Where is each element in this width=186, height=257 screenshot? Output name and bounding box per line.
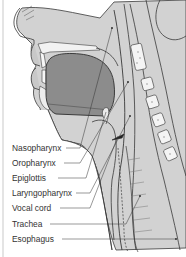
label-nasopharynx: Nasopharynx xyxy=(12,143,61,153)
tongue xyxy=(46,53,115,116)
label-laryngopharynx: Laryngopharynx xyxy=(12,188,72,198)
label-esophagus: Esophagus xyxy=(12,234,54,244)
label-oropharynx: Oropharynx xyxy=(12,158,56,168)
lower-teeth xyxy=(42,70,46,84)
label-epiglottis: Epiglottis xyxy=(12,173,46,183)
label-vocal-cord: Vocal cord xyxy=(12,203,51,213)
label-trachea: Trachea xyxy=(12,219,42,229)
anatomy-diagram: Nasopharynx Oropharynx Epiglottis Laryng… xyxy=(0,0,186,257)
